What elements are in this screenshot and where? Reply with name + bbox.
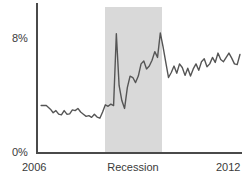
y-axis-tick-0pct: 0% xyxy=(12,147,28,158)
recession-band-label: Recession xyxy=(101,162,165,173)
unemployment-rate-line xyxy=(41,33,240,118)
x-axis-tick-2006: 2006 xyxy=(22,162,46,173)
y-axis-tick-8pct: 8% xyxy=(12,33,28,44)
chart-container: 8% 0% 2006 2012 Recession xyxy=(0,0,251,184)
series-plot-area xyxy=(0,0,251,184)
x-axis-tick-2012: 2012 xyxy=(216,162,240,173)
